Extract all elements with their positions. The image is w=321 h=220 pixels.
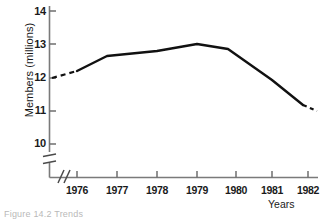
x-tick-marks (77, 171, 308, 178)
x-axis-break-icon (58, 170, 70, 183)
y-axis-break-icon (43, 154, 56, 164)
chart-figure: Members (millions) 14 13 12 11 10 1976 1… (0, 0, 321, 220)
data-line-series-members (77, 44, 303, 105)
data-line-trailing-dashed (303, 105, 317, 111)
data-line-leading-dashed (52, 71, 77, 78)
chart-plot-area (0, 0, 321, 220)
figure-caption: Figure 14.2 Trends (4, 209, 83, 219)
